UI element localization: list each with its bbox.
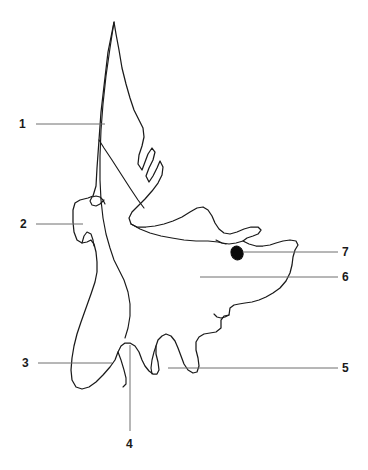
label-number-6: 6: [342, 271, 349, 283]
label-number-5: 5: [342, 362, 349, 374]
label-number-7: 7: [342, 246, 349, 258]
label-number-2: 2: [20, 218, 27, 230]
bone-outline-path: [71, 22, 298, 389]
bone-detail-stroke-7: [118, 352, 126, 387]
bone-diagram-svg: [0, 0, 368, 470]
label-number-3: 3: [22, 357, 29, 369]
anatomical-figure: 1 2 3 4 5 6 7: [0, 0, 368, 470]
label-number-1: 1: [19, 118, 26, 130]
label-number-4: 4: [126, 438, 133, 450]
